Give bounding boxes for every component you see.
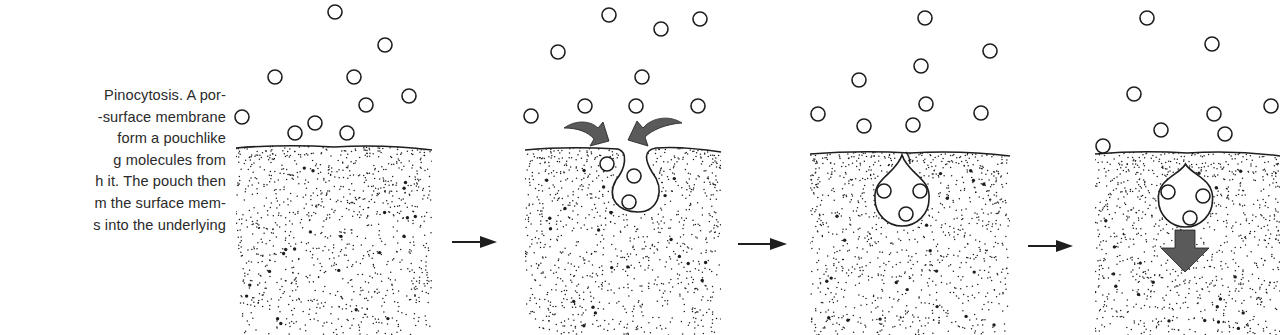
molecule-icon xyxy=(600,157,614,171)
molecule-icon xyxy=(1264,99,1278,113)
panel-stage-1 xyxy=(235,5,433,335)
molecule-icon xyxy=(1127,87,1141,101)
step-arrow-icon xyxy=(452,236,497,248)
molecule-icon xyxy=(235,110,249,124)
panel-stage-2 xyxy=(524,8,722,335)
molecule-icon xyxy=(524,109,538,123)
molecule-icon xyxy=(919,97,933,111)
molecule-icon xyxy=(852,73,866,87)
molecule-icon xyxy=(347,70,361,84)
molecule-icon xyxy=(551,45,565,59)
molecule-icon xyxy=(359,98,373,112)
molecule-icon xyxy=(402,89,416,103)
molecule-icon xyxy=(622,195,636,209)
step-arrow-icon xyxy=(738,238,787,250)
molecules xyxy=(524,8,707,209)
cytoplasm-stipple xyxy=(524,145,721,335)
pinocytosis-diagram xyxy=(0,0,1285,335)
molecule-icon xyxy=(691,99,705,113)
molecule-icon xyxy=(629,99,643,113)
molecule-icon xyxy=(340,126,354,140)
molecule-icon xyxy=(811,107,825,121)
molecule-icon xyxy=(635,70,649,84)
panel-stage-4 xyxy=(1094,11,1280,335)
cell-membrane xyxy=(236,146,432,150)
molecule-icon xyxy=(983,44,997,58)
molecule-icon xyxy=(308,116,322,130)
molecule-icon xyxy=(602,8,616,22)
molecule-icon xyxy=(654,22,668,36)
molecule-icon xyxy=(378,38,392,52)
molecule-icon xyxy=(578,99,592,113)
molecule-icon xyxy=(1154,123,1168,137)
molecule-icon xyxy=(918,11,932,25)
panel-stage-3 xyxy=(809,11,1010,335)
molecule-icon xyxy=(877,184,891,198)
down-arrow-icon xyxy=(1161,230,1209,272)
molecule-icon xyxy=(288,126,302,140)
molecule-icon xyxy=(1205,37,1219,51)
molecule-icon xyxy=(857,119,871,133)
molecule-icon xyxy=(974,106,988,120)
molecule-icon xyxy=(914,59,928,73)
molecule-icon xyxy=(328,5,342,19)
molecule-icon xyxy=(268,70,282,84)
molecule-icon xyxy=(1161,185,1175,199)
molecule-icon xyxy=(693,12,707,26)
molecule-icon xyxy=(1218,127,1232,141)
molecule-icon xyxy=(1207,107,1221,121)
cytoplasm-stipple xyxy=(235,143,432,335)
molecule-icon xyxy=(1096,139,1110,153)
molecules xyxy=(235,5,416,140)
molecule-icon xyxy=(906,118,920,132)
inward-curved-arrow-icon xyxy=(628,118,682,146)
cell-membrane xyxy=(1095,152,1280,156)
molecule-icon xyxy=(913,184,927,198)
molecule-icon xyxy=(1140,11,1154,25)
step-arrow-icon xyxy=(1028,240,1073,252)
molecule-icon xyxy=(627,169,641,183)
molecule-icon xyxy=(1196,189,1210,203)
molecule-icon xyxy=(899,207,913,221)
inward-curved-arrow-icon xyxy=(564,122,609,146)
molecule-icon xyxy=(1183,211,1197,225)
